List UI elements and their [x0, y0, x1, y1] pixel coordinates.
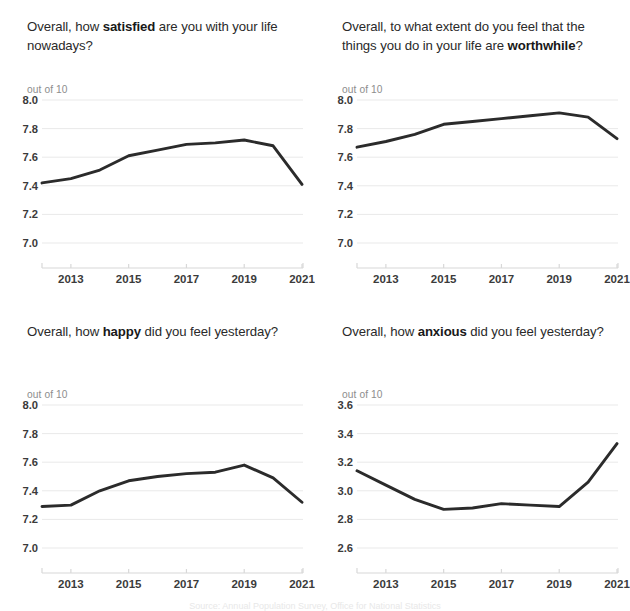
y-axis-tick-label: 7.0 — [337, 237, 353, 249]
plot-area-satisfied: 7.07.27.47.67.88.020132015201720192021 — [0, 0, 315, 305]
y-axis-tick-label: 7.2 — [337, 208, 353, 220]
y-axis-tick-label: 7.8 — [337, 123, 353, 135]
x-axis-tick-label: 2015 — [431, 578, 457, 590]
y-axis-tick-label: 3.6 — [337, 399, 353, 411]
series-line-worthwhile — [357, 113, 617, 147]
x-axis-tick-label: 2015 — [431, 273, 457, 285]
y-axis-tick-label: 7.6 — [22, 151, 38, 163]
x-axis-tick-label: 2021 — [289, 273, 315, 285]
x-axis-tick-label: 2019 — [546, 578, 572, 590]
y-axis-tick-label: 7.2 — [22, 208, 38, 220]
x-axis-tick-label: 2021 — [604, 273, 630, 285]
panel-happy: Overall, how happy did you feel yesterda… — [0, 305, 315, 610]
source-footnote: Source: Annual Population Survey, Office… — [0, 601, 630, 611]
y-axis-tick-label: 7.6 — [337, 151, 353, 163]
y-axis-tick-label: 7.4 — [337, 180, 353, 192]
plot-area-happy: 7.07.27.47.67.88.020132015201720192021 — [0, 305, 315, 610]
y-axis-tick-label: 3.2 — [337, 456, 353, 468]
y-axis-tick-label: 8.0 — [22, 94, 38, 106]
panel-satisfied: Overall, how satisfied are you with your… — [0, 0, 315, 305]
x-axis-tick-label: 2017 — [174, 578, 200, 590]
x-axis-tick-label: 2017 — [489, 273, 515, 285]
x-axis-tick-label: 2021 — [604, 578, 630, 590]
x-axis-tick-label: 2017 — [489, 578, 515, 590]
x-axis-tick-label: 2013 — [373, 273, 399, 285]
panel-worthwhile: Overall, to what extent do you feel that… — [315, 0, 630, 305]
y-axis-tick-label: 3.0 — [337, 485, 353, 497]
y-axis-tick-label: 7.2 — [22, 513, 38, 525]
y-axis-tick-label: 7.8 — [22, 428, 38, 440]
y-axis-tick-label: 8.0 — [337, 94, 353, 106]
y-axis-tick-label: 7.0 — [22, 542, 38, 554]
x-axis-tick-label: 2013 — [373, 578, 399, 590]
y-axis-tick-label: 7.4 — [22, 180, 38, 192]
y-axis-tick-label: 7.8 — [22, 123, 38, 135]
y-axis-tick-label: 7.4 — [22, 485, 38, 497]
x-axis-tick-label: 2013 — [58, 578, 84, 590]
y-axis-tick-label: 2.6 — [337, 542, 353, 554]
x-axis-tick-label: 2021 — [289, 578, 315, 590]
series-line-anxious — [357, 444, 617, 510]
x-axis-tick-label: 2013 — [58, 273, 84, 285]
x-axis-tick-label: 2017 — [174, 273, 200, 285]
x-axis-tick-label: 2019 — [231, 578, 257, 590]
series-line-happy — [42, 465, 302, 506]
x-axis-tick-label: 2015 — [116, 578, 142, 590]
y-axis-tick-label: 8.0 — [22, 399, 38, 411]
y-axis-tick-label: 2.8 — [337, 513, 353, 525]
x-axis-tick-label: 2019 — [231, 273, 257, 285]
plot-area-anxious: 2.62.83.03.23.43.620132015201720192021 — [315, 305, 630, 610]
plot-area-worthwhile: 7.07.27.47.67.88.020132015201720192021 — [315, 0, 630, 305]
series-line-satisfied — [42, 140, 302, 184]
x-axis-tick-label: 2019 — [546, 273, 572, 285]
y-axis-tick-label: 7.0 — [22, 237, 38, 249]
panel-anxious: Overall, how anxious did you feel yester… — [315, 305, 630, 610]
y-axis-tick-label: 3.4 — [337, 428, 353, 440]
x-axis-tick-label: 2015 — [116, 273, 142, 285]
y-axis-tick-label: 7.6 — [22, 456, 38, 468]
